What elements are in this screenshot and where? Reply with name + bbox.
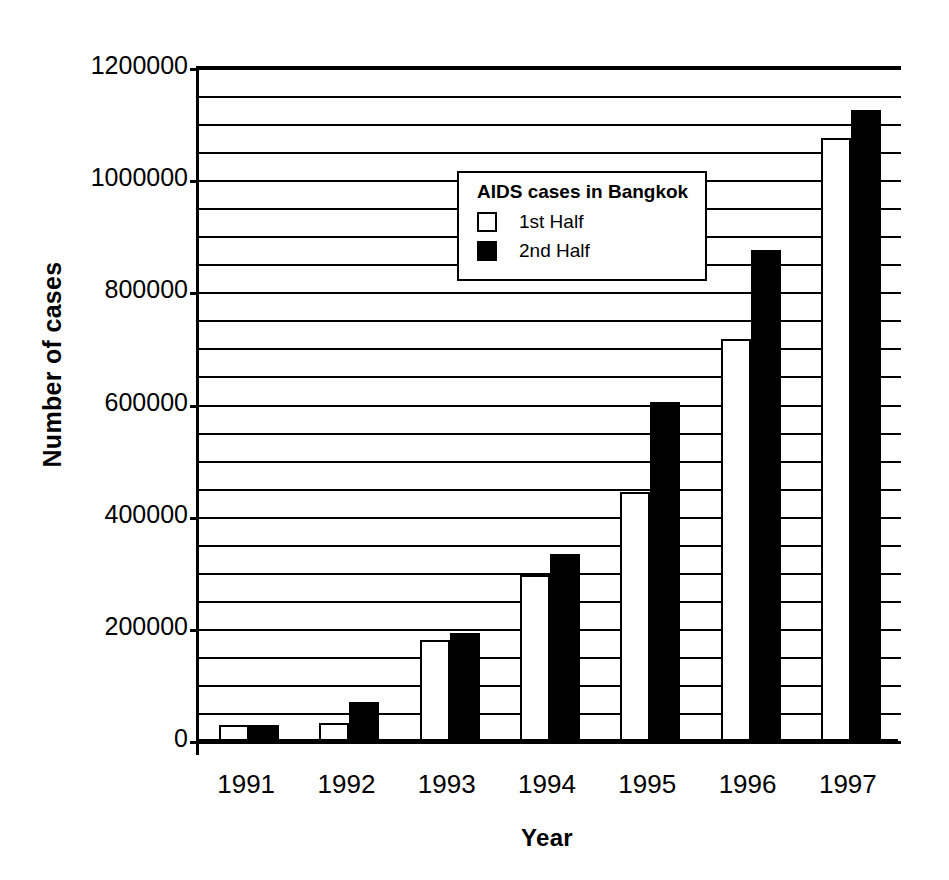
x-axis-tick-labels: 1991199219931994199519961997 — [196, 768, 898, 802]
bar-1997-2nd-half — [851, 110, 881, 741]
white-square-swatch-icon — [477, 212, 497, 232]
legend-label-2nd-half: 2nd Half — [519, 241, 590, 261]
bar-1993-1st-half — [420, 640, 450, 741]
aids-cases-bar-chart: Number of cases 020000040000060000080000… — [0, 0, 949, 880]
x-axis-tick-label: 1994 — [497, 768, 597, 800]
bar-1992-2nd-half — [349, 702, 379, 741]
legend-entry-1st-half: 1st Half — [477, 212, 705, 232]
x-axis-tick-label: 1993 — [397, 768, 497, 800]
x-axis-tick-label: 1991 — [196, 768, 296, 800]
y-axis-tick-label: 600000 — [0, 390, 188, 415]
x-axis-tick-label: 1992 — [296, 768, 396, 800]
y-axis-tick-mark — [190, 405, 199, 408]
y-axis-tick-mark — [190, 292, 199, 295]
y-axis-tick-label: 1000000 — [0, 165, 188, 190]
y-axis-tick-label: 200000 — [0, 614, 188, 639]
y-axis-tick-mark — [190, 517, 199, 520]
y-axis-tick-labels: 020000040000060000080000010000001200000 — [0, 0, 188, 880]
bars-layer — [199, 68, 901, 741]
x-axis-line — [196, 739, 898, 742]
bar-1996-1st-half — [721, 339, 751, 741]
x-axis-title: Year — [196, 824, 898, 852]
legend-entry-2nd-half: 2nd Half — [477, 241, 705, 261]
y-axis-tick-label: 400000 — [0, 502, 188, 527]
bar-1995-2nd-half — [650, 402, 680, 741]
black-square-swatch-icon — [477, 241, 497, 261]
bar-1996-2nd-half — [751, 250, 781, 741]
bar-1994-2nd-half — [550, 554, 580, 741]
y-axis-tick-label: 800000 — [0, 277, 188, 302]
legend-title: AIDS cases in Bangkok — [477, 181, 705, 203]
x-axis-tick-label: 1996 — [697, 768, 797, 800]
chart-legend: AIDS cases in Bangkok 1st Half 2nd Half — [457, 171, 707, 281]
y-axis-tick-mark — [190, 68, 199, 71]
bar-1994-1st-half — [520, 575, 550, 741]
x-axis-tick-label: 1995 — [597, 768, 697, 800]
plot-area: AIDS cases in Bangkok 1st Half 2nd Half — [196, 66, 901, 741]
y-axis-tick-mark — [190, 629, 199, 632]
y-axis-tick-label: 0 — [0, 726, 188, 751]
bar-1993-2nd-half — [450, 633, 480, 741]
x-axis-origin-stub — [196, 739, 199, 755]
legend-label-1st-half: 1st Half — [519, 212, 583, 232]
bar-1997-1st-half — [821, 138, 851, 741]
x-axis-tick-label: 1997 — [798, 768, 898, 800]
y-axis-tick-label: 1200000 — [0, 53, 188, 78]
bar-1995-1st-half — [620, 492, 650, 741]
y-axis-tick-mark — [190, 180, 199, 183]
